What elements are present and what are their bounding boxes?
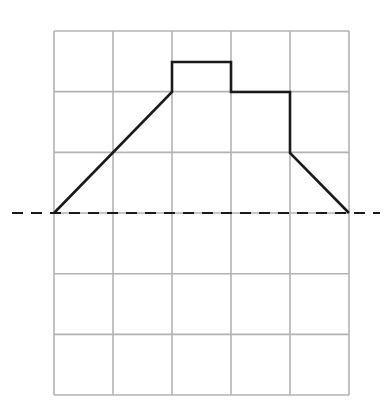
grid-diagram xyxy=(0,0,388,408)
shape-outline xyxy=(54,62,349,213)
diagram-canvas xyxy=(0,0,388,408)
